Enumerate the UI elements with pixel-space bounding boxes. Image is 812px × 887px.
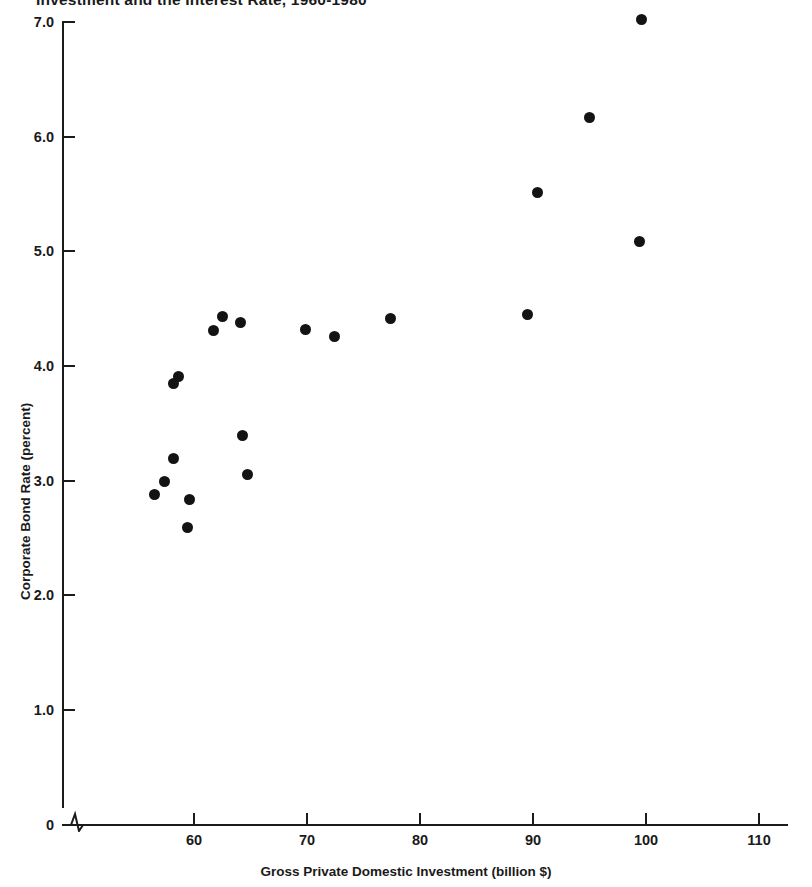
y-tick-label: 0 (8, 818, 54, 833)
x-axis-break-icon (64, 806, 94, 832)
y-axis-title: Corporate Bond Rate (percent) (18, 403, 33, 600)
data-point (300, 324, 311, 335)
data-point (636, 14, 647, 25)
x-tick-mark (419, 813, 421, 824)
data-point (237, 430, 248, 441)
y-tick-mark (64, 136, 75, 138)
x-tick-label: 70 (277, 833, 337, 848)
y-tick-mark (64, 480, 75, 482)
data-point (385, 313, 396, 324)
data-point (173, 371, 184, 382)
y-tick-mark (64, 250, 75, 252)
y-tick-mark (64, 824, 75, 826)
x-tick-mark (645, 813, 647, 824)
data-point (235, 317, 246, 328)
x-axis-title: Gross Private Domestic Investment (billi… (0, 864, 812, 879)
y-tick-label: 1.0 (8, 703, 54, 718)
data-point (149, 489, 160, 500)
data-point (242, 469, 253, 480)
y-tick-mark (64, 709, 75, 711)
y-tick-label: 4.0 (8, 359, 54, 374)
data-point (159, 476, 170, 487)
data-point (532, 187, 543, 198)
x-tick-label: 100 (616, 833, 676, 848)
x-tick-mark (758, 813, 760, 824)
scatter-chart-figure: Investment and the Interest Rate, 1960-1… (0, 0, 812, 887)
x-tick-mark (532, 813, 534, 824)
data-point (634, 236, 645, 247)
x-tick-mark (193, 813, 195, 824)
data-point (184, 494, 195, 505)
y-tick-mark (64, 594, 75, 596)
x-tick-label: 90 (503, 833, 563, 848)
y-tick-label: 5.0 (8, 244, 54, 259)
y-tick-mark (64, 21, 75, 23)
x-tick-label: 80 (390, 833, 450, 848)
plot-area: 01.02.03.04.05.06.07.0 60708090100110 Co… (0, 0, 812, 887)
x-tick-mark (306, 813, 308, 824)
x-axis-line (62, 824, 788, 826)
data-point (584, 112, 595, 123)
data-point (182, 522, 193, 533)
x-tick-label: 60 (164, 833, 224, 848)
data-point (217, 311, 228, 322)
y-tick-label: 7.0 (8, 15, 54, 30)
y-tick-mark (64, 365, 75, 367)
data-point (329, 331, 340, 342)
data-point (208, 325, 219, 336)
data-point (168, 453, 179, 464)
y-axis-line (62, 21, 64, 808)
x-tick-label: 110 (729, 833, 789, 848)
data-point (522, 309, 533, 320)
y-tick-label: 6.0 (8, 130, 54, 145)
